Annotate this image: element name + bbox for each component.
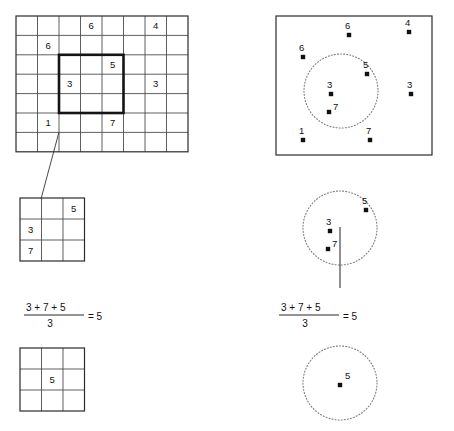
result-point-values: 5 [338, 370, 350, 387]
result-point-marker [338, 383, 342, 387]
source-raster-cell-value: 6 [89, 20, 94, 31]
source-point-marker [301, 138, 305, 142]
source-point-label: 7 [366, 125, 371, 136]
source-point-label: 6 [299, 42, 304, 53]
source-point-marker [347, 33, 351, 37]
extracted-point-label: 3 [326, 216, 331, 227]
source-raster-cell-value: 1 [46, 117, 51, 128]
grid-formula-equals: = 5 [88, 311, 103, 322]
extracted-point-marker [364, 208, 368, 212]
source-point-marker [329, 92, 333, 96]
source-raster-cell-value: 6 [46, 40, 51, 51]
source-point-marker [368, 138, 372, 142]
grid-mean-formula: 3 + 7 + 5 3 = 5 [24, 302, 103, 329]
extracted-point-label: 7 [332, 238, 337, 249]
extracted-window-cell-value: 3 [28, 224, 33, 235]
extracted-point-marker [326, 247, 330, 251]
point-mean-formula: 3 + 7 + 5 3 = 5 [279, 302, 358, 329]
result-window-values: 5 [50, 374, 55, 385]
source-raster-cell-value: 4 [153, 20, 158, 31]
source-point-marker [409, 92, 413, 96]
result-point-label: 5 [345, 370, 350, 381]
point-formula-equals: = 5 [343, 311, 358, 322]
source-point-label: 3 [407, 79, 412, 90]
extracted-point-values: 537 [326, 195, 368, 251]
source-raster-grid [16, 16, 188, 152]
source-raster-cell-value: 7 [110, 117, 115, 128]
result-window-cell-value: 5 [50, 374, 55, 385]
source-point-marker [365, 72, 369, 76]
point-formula-denominator: 3 [302, 318, 308, 329]
source-raster-cell-value: 3 [67, 78, 72, 89]
point-formula-numerator: 3 + 7 + 5 [281, 302, 321, 313]
diagram-root: 64653317 537 3 + 7 + 5 3 = 5 5 646533717… [0, 0, 454, 431]
source-point-label: 6 [345, 20, 350, 31]
window-connector-line [41, 132, 59, 199]
source-point-marker [327, 110, 331, 114]
source-point-label: 3 [327, 79, 332, 90]
spatial-mean-filter-figure: 64653317 537 3 + 7 + 5 3 = 5 5 646533717… [0, 0, 454, 431]
source-point-label: 7 [333, 101, 338, 112]
extracted-point-marker [328, 229, 332, 233]
extracted-window-cell-value: 7 [28, 245, 33, 256]
source-raster-cell-value: 3 [153, 78, 158, 89]
source-point-marker [301, 55, 305, 59]
source-point-label: 4 [405, 17, 410, 28]
extracted-window-cell-value: 5 [71, 203, 76, 214]
source-point-label: 1 [299, 125, 304, 136]
grid-formula-numerator: 3 + 7 + 5 [26, 302, 66, 313]
source-point-marker [407, 30, 411, 34]
extracted-window-values: 537 [28, 203, 76, 256]
source-point-label: 5 [363, 59, 368, 70]
source-point-values: 646533717 [299, 17, 413, 142]
grid-formula-denominator: 3 [47, 318, 53, 329]
source-raster-cell-value: 5 [110, 59, 115, 70]
extracted-point-label: 5 [362, 195, 367, 206]
